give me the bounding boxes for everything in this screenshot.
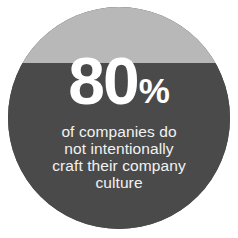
circle-band-bottom-dark: [8, 63, 230, 229]
statistic-circle: [8, 7, 230, 229]
infographic-canvas: 80 % of companies do not intentionally c…: [0, 0, 238, 238]
circle-band-top-light: [8, 7, 230, 63]
